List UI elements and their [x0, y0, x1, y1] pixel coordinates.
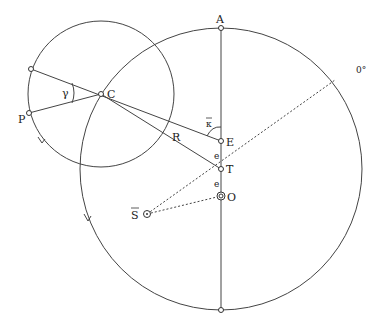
point-bottom	[219, 308, 224, 313]
label-e-lower: e	[214, 179, 219, 189]
label-C: C	[107, 88, 115, 101]
label-E: E	[226, 136, 234, 149]
label-P: P	[18, 113, 26, 126]
zero-degree-dotted-line	[147, 80, 335, 214]
label-A: A	[215, 13, 225, 26]
point-O-inner	[219, 194, 223, 198]
label-O: O	[227, 191, 236, 204]
gamma-angle-arc	[72, 83, 74, 103]
label-gamma: γ	[62, 87, 69, 100]
label-T: T	[226, 163, 234, 176]
point-upper-left	[29, 67, 34, 72]
point-T	[219, 167, 224, 172]
diagram-canvas: A C P R E T O S γ κ e e 0°	[0, 0, 383, 327]
point-C	[99, 92, 104, 97]
point-P	[27, 111, 32, 116]
point-E	[219, 139, 224, 144]
s-to-o-dotted-line	[147, 196, 221, 214]
label-kappa: κ	[206, 119, 212, 129]
label-zero-degree: 0°	[356, 65, 366, 75]
point-S-inner	[146, 213, 148, 215]
label-S: S	[131, 209, 139, 222]
small-circle-arrow-icon	[38, 137, 45, 143]
label-R: R	[172, 131, 181, 144]
label-e-upper: e	[214, 151, 219, 161]
line-C-to-T	[101, 94, 221, 169]
point-A	[219, 26, 224, 31]
